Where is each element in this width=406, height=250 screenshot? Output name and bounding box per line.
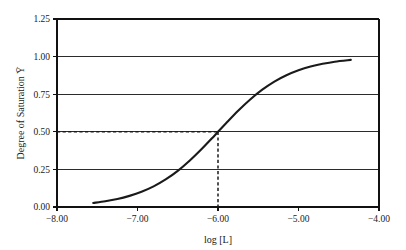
- x-tick-label: −5.00: [288, 214, 310, 224]
- chart-figure: −8.00−7.00−6.00−5.00−4.00 0.000.250.500.…: [0, 0, 406, 250]
- y-tick-label: 0.75: [33, 90, 50, 100]
- y-tick-label: 0.50: [33, 127, 50, 137]
- y-tick-label: 1.00: [33, 52, 50, 62]
- y-tick-label: 0.25: [33, 165, 50, 175]
- y-tick-label: 1.25: [33, 14, 50, 24]
- saturation-curve-plot: −8.00−7.00−6.00−5.00−4.00 0.000.250.500.…: [0, 0, 406, 250]
- x-tick-label: −4.00: [368, 214, 390, 224]
- chart-background: [0, 0, 406, 250]
- x-tick-label: −8.00: [46, 214, 68, 224]
- x-axis-title: log [L]: [204, 234, 232, 245]
- y-axis-title: Degree of Saturation Ȳ: [15, 66, 26, 159]
- x-tick-label: −6.00: [207, 214, 229, 224]
- y-tick-label: 0.00: [33, 202, 50, 212]
- x-tick-label: −7.00: [127, 214, 149, 224]
